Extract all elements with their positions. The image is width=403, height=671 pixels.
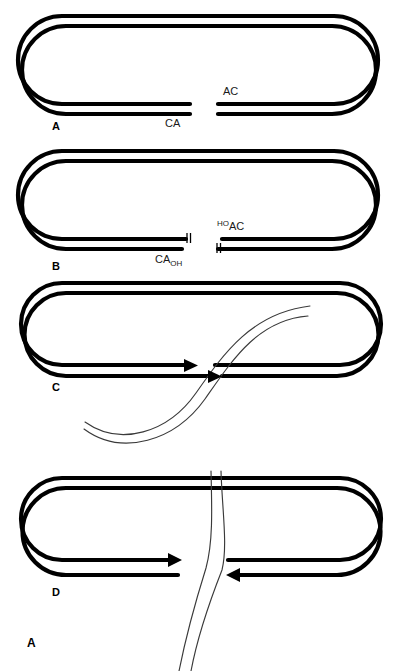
panel-letter-b: B xyxy=(52,260,60,272)
host-dna-outer-strand xyxy=(21,478,381,560)
panel-c: C xyxy=(0,275,403,455)
figure-label: A xyxy=(27,636,36,650)
panel-b: HOAC CAOH B xyxy=(0,135,403,280)
host-dna-outer-strand xyxy=(18,16,378,104)
integration-arrow-lower-right xyxy=(226,568,240,582)
right-end-label-ho-ac: HOAC xyxy=(217,219,244,232)
nick-arrow-upper xyxy=(184,359,198,372)
panel-c-graphic: C xyxy=(0,275,403,455)
host-dna-inner-strand xyxy=(22,161,376,249)
panel-a: AC CA A xyxy=(0,0,403,140)
figure-root: AC CA A xyxy=(0,0,403,671)
donor-dna-strand-upper xyxy=(85,306,310,434)
panel-d-graphic: D xyxy=(0,450,403,671)
left-end-label-ca: CA xyxy=(165,117,181,129)
donor-dna-strand-left xyxy=(179,471,212,671)
panel-letter-c: C xyxy=(52,381,60,393)
panel-letter-a: A xyxy=(52,120,60,132)
panel-d: D xyxy=(0,450,403,671)
host-dna-inner-strand xyxy=(22,26,376,114)
donor-dna-strand-right xyxy=(191,471,225,671)
host-dna-outer-strand xyxy=(21,283,381,365)
panel-letter-d: D xyxy=(52,586,60,598)
left-end-label-ca-oh: CAOH xyxy=(155,253,183,268)
integration-arrow-upper-left xyxy=(168,553,182,567)
panel-b-graphic: HOAC CAOH B xyxy=(0,135,403,280)
panel-a-graphic: AC CA A xyxy=(0,0,403,140)
right-end-label-ac: AC xyxy=(223,85,238,97)
donor-dna-strand-lower xyxy=(84,316,308,443)
left-end-tick-marks xyxy=(187,233,191,243)
host-dna-outer-strand xyxy=(18,151,378,239)
nick-arrow-lower xyxy=(208,370,222,383)
